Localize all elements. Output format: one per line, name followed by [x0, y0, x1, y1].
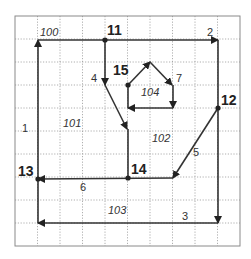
labels: 12345671112131415100101102103104: [18, 22, 237, 222]
region-label: 102: [152, 132, 170, 144]
node-label: 12: [221, 92, 237, 108]
node-12-dot: [215, 105, 220, 110]
edge-label: 4: [91, 72, 97, 84]
region-label: 100: [40, 26, 59, 38]
region-label: 103: [108, 204, 127, 216]
edge-5: [173, 108, 218, 178]
edge-label: 6: [80, 181, 86, 193]
edge-label: 5: [193, 146, 199, 158]
node-11-dot: [102, 37, 107, 42]
edge-label: 7: [176, 72, 182, 84]
node-label: 14: [131, 161, 147, 177]
node-14-dot: [125, 175, 130, 180]
node-label: 15: [113, 62, 129, 78]
edge-4b: [105, 85, 127, 129]
edge-7a: [128, 62, 150, 85]
edge-7: [150, 62, 172, 85]
edge-6: [38, 178, 173, 179]
grid-graph-diagram: 12345671112131415100101102103104: [0, 0, 251, 259]
node-label: 13: [18, 163, 34, 179]
node-label: 11: [107, 22, 122, 38]
node-15-dot: [125, 82, 130, 87]
node-13-dot: [35, 176, 40, 181]
region-label: 104: [141, 86, 159, 98]
edge-label: 1: [22, 122, 28, 134]
region-label: 101: [63, 117, 81, 129]
edge-label: 3: [182, 210, 188, 222]
edge-label: 2: [207, 26, 213, 38]
